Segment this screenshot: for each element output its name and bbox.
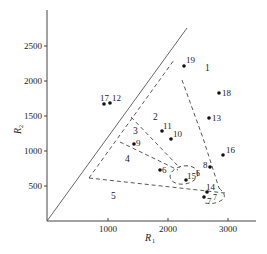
region-label: 4 xyxy=(125,154,130,164)
point-label: 19 xyxy=(186,55,196,65)
region-label: 1 xyxy=(205,63,210,73)
y-tick-label: 1000 xyxy=(24,146,43,156)
region-label: 3 xyxy=(133,126,138,136)
svg-text:2: 2 xyxy=(18,125,24,128)
data-points xyxy=(102,64,225,199)
y-tick-label: 2500 xyxy=(24,41,43,51)
region-labels: 1 2 3 4 5 6 7 xyxy=(111,63,217,202)
point-label: 18 xyxy=(222,88,232,98)
point-label: 16 xyxy=(226,145,236,155)
x-tick-label: 1000 xyxy=(99,224,118,234)
point-label: 9 xyxy=(136,138,141,148)
data-point xyxy=(207,116,211,120)
faint-caption-residue xyxy=(170,245,260,249)
region-label: 6 xyxy=(196,169,200,178)
y-tick-label: 2000 xyxy=(24,76,43,86)
point-labels: 17 12 19 18 13 11 10 9 16 8 6 15 14 7 xyxy=(100,55,236,206)
region-boundaries xyxy=(89,60,225,204)
x-tick-label: 2000 xyxy=(159,224,178,234)
boundary-outer-left xyxy=(89,60,174,178)
point-label: 6 xyxy=(162,165,167,175)
point-label: 10 xyxy=(173,129,183,139)
x-axis-title: R 1 xyxy=(144,232,155,244)
point-label: 17 xyxy=(100,93,110,103)
point-label: 8 xyxy=(203,160,208,170)
data-point xyxy=(217,91,221,95)
point-label: 12 xyxy=(112,93,121,103)
point-label: 13 xyxy=(212,113,222,123)
y-axis-title: R 2 xyxy=(12,125,24,135)
x-tick-label: 3000 xyxy=(219,224,238,234)
data-point xyxy=(202,195,206,199)
y-tick-label: 500 xyxy=(29,181,43,191)
scatter-chart: 500 1000 1500 2000 2500 1000 2000 3000 R… xyxy=(0,0,267,254)
data-point xyxy=(221,153,225,157)
point-label: 14 xyxy=(206,182,216,192)
region-label: 2 xyxy=(153,112,158,122)
boundary-lower xyxy=(89,178,225,193)
svg-text:1: 1 xyxy=(152,238,155,244)
y-tick-label: 1500 xyxy=(24,111,43,121)
region-label: 7 xyxy=(213,193,217,202)
svg-text:R: R xyxy=(144,232,151,243)
point-label: 7 xyxy=(207,196,212,206)
point-label: 11 xyxy=(163,121,172,131)
region-label: 5 xyxy=(111,191,116,201)
data-point xyxy=(208,165,212,169)
